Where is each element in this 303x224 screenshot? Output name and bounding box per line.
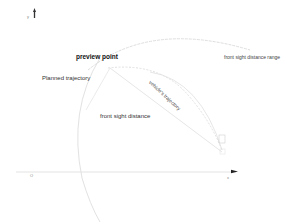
front-sight-distance-label: front sight distance xyxy=(100,113,150,119)
x-axis-arrow-icon xyxy=(231,170,238,173)
front-sight-distance-line xyxy=(110,68,222,152)
y-axis-label: y xyxy=(27,14,29,19)
x-axis-label: x xyxy=(227,175,229,180)
front-sight-range-arc-left xyxy=(78,58,100,222)
y-axis-arrowhead-icon xyxy=(33,8,36,12)
planned-trajectory-label: Planned trajectory xyxy=(42,75,90,81)
diagram-canvas xyxy=(0,0,303,224)
vehicle-icon xyxy=(219,135,225,143)
front-sight-distance-range-label: front sight distance range xyxy=(224,54,280,60)
vehicle-trajectory-arc xyxy=(150,72,222,150)
origin-label: O xyxy=(30,173,33,178)
preview-point-label: preview point xyxy=(76,53,118,60)
